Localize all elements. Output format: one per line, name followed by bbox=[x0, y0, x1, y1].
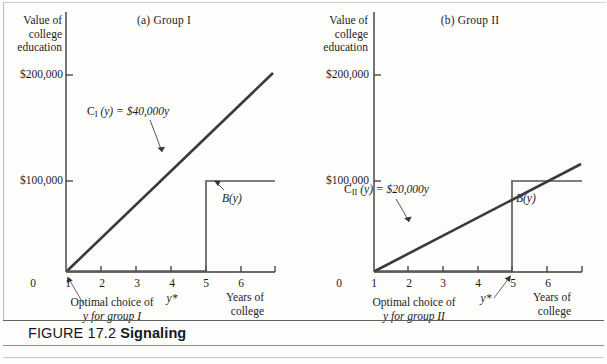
panel-a-note-leader-line bbox=[69, 279, 84, 305]
figure-number: FIGURE 17.2 bbox=[28, 325, 116, 341]
panel-b-benefit-curve bbox=[375, 181, 582, 271]
panel-b-note-arrowhead bbox=[505, 276, 511, 282]
panel-a-plot bbox=[0, 0, 303, 320]
page-bottom-rule bbox=[3, 357, 604, 358]
panel-a-benefit-curve bbox=[67, 181, 275, 271]
panel-b-cost-curve bbox=[375, 164, 581, 271]
panel-b-note-leader-line bbox=[494, 278, 509, 298]
figure-name: Signaling bbox=[120, 325, 186, 341]
figure-page: (a) Group I Value of college education $… bbox=[0, 0, 607, 364]
panel-a-cost-curve bbox=[67, 73, 273, 271]
panel-group-ii: (b) Group II Value of college education … bbox=[304, 0, 607, 320]
figure-caption: FIGURE 17.2Signaling bbox=[28, 325, 186, 341]
panel-b-cost-arrowhead bbox=[404, 217, 412, 222]
panel-a-cost-leader-line bbox=[150, 120, 162, 152]
panel-group-i: (a) Group I Value of college education $… bbox=[0, 0, 303, 320]
panel-a-cost-arrowhead bbox=[158, 147, 166, 152]
panel-b-plot bbox=[304, 0, 607, 320]
panel-a-note-arrowhead bbox=[67, 277, 73, 284]
